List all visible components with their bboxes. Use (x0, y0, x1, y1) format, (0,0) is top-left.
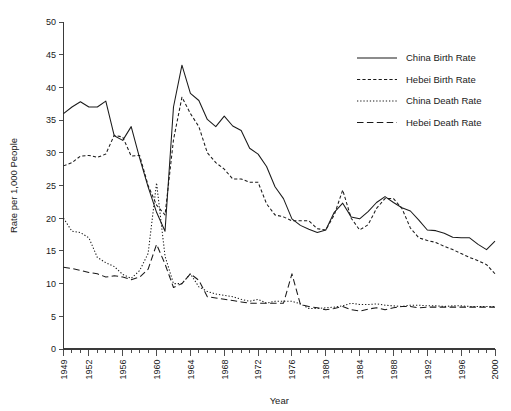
chart-legend: China Birth RateHebei Birth RateChina De… (357, 52, 482, 128)
x-tick-label: 1968 (220, 360, 230, 380)
x-axis-title: Year (270, 395, 289, 406)
x-tick-label: 1972 (253, 360, 263, 380)
x-tick-label: 1996 (457, 360, 467, 380)
x-tick-label: 1956 (118, 360, 128, 380)
y-tick-label: 30 (46, 148, 56, 158)
line-chart-svg: 05101520253035404550 1949195219561960196… (0, 0, 511, 411)
y-tick-label: 50 (46, 17, 56, 27)
legend-label: China Death Rate (406, 95, 482, 106)
y-tick-label: 45 (46, 50, 56, 60)
y-tick-label: 20 (46, 214, 56, 224)
x-tick-label: 1980 (321, 360, 331, 380)
x-tick-label: 1984 (355, 360, 365, 380)
y-axis-ticks: 05101520253035404550 (46, 17, 64, 354)
y-tick-label: 35 (46, 115, 56, 125)
series-line-china-birth-rate (64, 65, 496, 249)
x-tick-label: 1952 (84, 360, 94, 380)
legend-label: Hebei Death Rate (406, 117, 482, 128)
y-tick-label: 25 (46, 181, 56, 191)
x-axis-ticks: 1949195219561960196419681972197619801984… (59, 349, 501, 380)
x-tick-label: 1949 (59, 360, 69, 380)
chart-figure: 05101520253035404550 1949195219561960196… (0, 0, 511, 411)
series-line-hebei-death-rate (64, 244, 496, 311)
y-tick-label: 10 (46, 279, 56, 289)
x-tick-label: 1960 (152, 360, 162, 380)
y-tick-label: 40 (46, 83, 56, 93)
x-tick-label: 2000 (490, 360, 500, 380)
y-axis-title: Rate per 1,000 People (8, 138, 19, 233)
x-tick-label: 1964 (186, 360, 196, 380)
legend-label: Hebei Birth Rate (406, 74, 476, 85)
x-tick-label: 1992 (423, 360, 433, 380)
x-tick-label: 1988 (389, 360, 399, 380)
y-tick-label: 15 (46, 246, 56, 256)
x-tick-label: 1976 (287, 360, 297, 380)
y-tick-label: 0 (51, 344, 56, 354)
y-tick-label: 5 (51, 312, 56, 322)
series-line-china-death-rate (64, 183, 496, 309)
legend-label: China Birth Rate (406, 52, 476, 63)
